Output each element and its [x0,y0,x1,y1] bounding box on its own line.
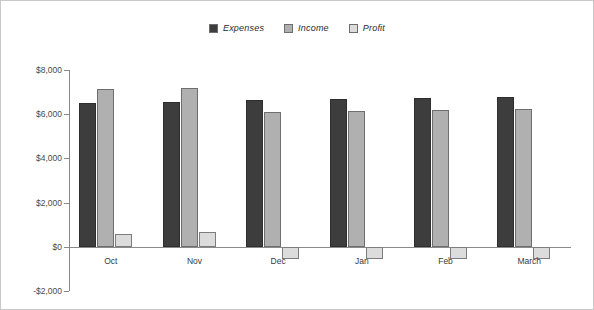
y-axis-tick-label: $0 [53,242,62,252]
bar-income[interactable] [348,111,365,247]
bar-groups: OctNovDecJanFebMarch [69,70,571,291]
y-axis-tick [64,291,69,292]
y-axis-tick-label: $8,000 [36,65,62,75]
bar-expenses[interactable] [497,97,514,247]
chart-legend: ExpensesIncomeProfit [1,23,593,33]
legend-item[interactable]: Expenses [209,23,264,33]
y-axis-tick-label: $6,000 [36,109,62,119]
bar-income[interactable] [97,89,114,247]
bar-group: Jan [320,70,404,291]
bar-income[interactable] [264,112,281,247]
legend-label: Profit [363,23,385,33]
bar-group: Oct [69,70,153,291]
bar-expenses[interactable] [330,99,347,247]
legend-swatch-icon [349,24,358,33]
x-axis-tick-label: March [517,256,541,266]
bar-expenses[interactable] [163,102,180,247]
x-axis-tick-label: Oct [104,256,117,266]
bar-income[interactable] [515,109,532,247]
x-axis-tick-label: Nov [187,256,202,266]
legend-label: Income [298,23,329,33]
y-axis-tick-label: $4,000 [36,153,62,163]
bar-expenses[interactable] [246,100,263,247]
bar-group: Dec [236,70,320,291]
legend-label: Expenses [223,23,264,33]
legend-swatch-icon [209,24,218,33]
bar-income[interactable] [181,88,198,247]
legend-swatch-icon [284,24,293,33]
bar-group: Feb [404,70,488,291]
x-axis-tick-label: Dec [271,256,286,266]
bar-profit[interactable] [115,234,132,247]
bar-profit[interactable] [199,232,216,247]
x-axis-tick-label: Jan [355,256,369,266]
legend-item[interactable]: Income [284,23,329,33]
bar-group: Nov [153,70,237,291]
bar-expenses[interactable] [414,98,431,247]
plot-area: $8,000$6,000$4,000$2,000$0-$2,000 OctNov… [69,70,571,291]
x-axis-tick-label: Feb [438,256,453,266]
bar-income[interactable] [432,110,449,247]
bar-expenses[interactable] [79,103,96,247]
bar-group: March [487,70,571,291]
y-axis-tick-label: $2,000 [36,198,62,208]
chart-container: ExpensesIncomeProfit $8,000$6,000$4,000$… [0,0,594,310]
y-axis-tick-label: -$2,000 [33,286,62,296]
legend-item[interactable]: Profit [349,23,385,33]
